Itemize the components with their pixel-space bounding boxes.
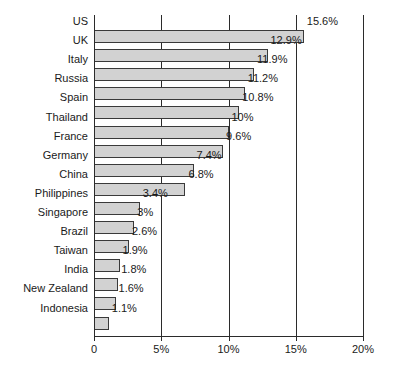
bar xyxy=(94,68,254,81)
x-axis-tick-mark xyxy=(296,336,297,341)
category-label: France xyxy=(54,130,88,143)
category-label: UK xyxy=(73,34,88,47)
x-axis-tick-mark xyxy=(229,336,230,341)
category-label: Indonesia xyxy=(40,302,88,315)
bar xyxy=(94,49,268,62)
bar xyxy=(94,278,118,291)
gridline xyxy=(229,15,230,336)
x-axis-tick-label: 20% xyxy=(352,343,374,355)
x-axis-tick-mark xyxy=(94,336,95,341)
bar-value-label: 3% xyxy=(137,206,153,219)
bar-value-label: 15.6% xyxy=(307,15,338,28)
bar xyxy=(94,106,239,119)
y-axis-line xyxy=(94,15,95,336)
right-axis-line xyxy=(363,15,364,336)
bar-value-label: 3.4% xyxy=(143,187,168,200)
bar-value-label: 1.6% xyxy=(119,282,144,295)
x-axis-tick-label: 0 xyxy=(91,343,97,355)
bar-value-label: 12.9% xyxy=(271,34,302,47)
bar-value-label: 10% xyxy=(232,111,254,124)
bar-value-label: 2.6% xyxy=(132,225,157,238)
bar xyxy=(94,183,185,196)
category-label: Philippines xyxy=(35,187,88,200)
bar-value-label: 11.2% xyxy=(248,72,278,85)
bar xyxy=(94,202,140,215)
bar-value-label: 6.8% xyxy=(188,168,213,181)
category-label: Thailand xyxy=(46,111,88,124)
bar-value-label: 1.1% xyxy=(112,302,137,315)
x-axis-tick-label: 5% xyxy=(153,343,169,355)
bar-value-label: 1.9% xyxy=(123,244,148,257)
bar-value-label: 11.9% xyxy=(257,53,287,66)
category-label: New Zealand xyxy=(23,282,88,295)
bar xyxy=(94,259,120,272)
bar-value-label: 10.8% xyxy=(242,91,273,104)
bar-chart: 05%10%15%20% US15.6%UK12.9%Italy11.9%Rus… xyxy=(0,0,396,370)
category-label: US xyxy=(73,15,88,28)
x-axis-tick-label: 15% xyxy=(285,343,307,355)
category-label: Taiwan xyxy=(54,244,88,257)
bar-value-label: 9.6% xyxy=(226,130,251,143)
bar xyxy=(94,221,134,234)
category-label: Germany xyxy=(43,149,88,162)
bar xyxy=(94,126,229,139)
category-label: Russia xyxy=(54,72,88,85)
bar xyxy=(94,317,109,330)
bar-value-label: 1.8% xyxy=(121,263,146,276)
gridline xyxy=(296,15,297,336)
category-label: Spain xyxy=(60,91,88,104)
x-axis-tick-mark xyxy=(161,336,162,341)
category-label: China xyxy=(59,168,88,181)
x-axis-tick-mark xyxy=(363,336,364,341)
x-axis-tick-label: 10% xyxy=(217,343,239,355)
category-label: Brazil xyxy=(60,225,88,238)
category-label: Italy xyxy=(68,53,88,66)
category-label: India xyxy=(64,263,88,276)
bar xyxy=(94,87,245,100)
bar-value-label: 7.4% xyxy=(197,149,222,162)
category-label: Singapore xyxy=(38,206,88,219)
bar xyxy=(94,164,194,177)
